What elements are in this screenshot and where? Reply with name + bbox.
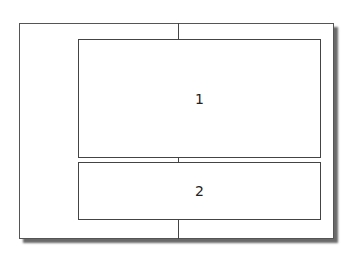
center-line-top [178,23,179,40]
box-1: 1 [78,39,321,158]
center-line-bottom [178,219,179,239]
box-1-label: 1 [195,91,204,107]
box-2-label: 2 [195,183,204,199]
box-2: 2 [78,162,321,220]
